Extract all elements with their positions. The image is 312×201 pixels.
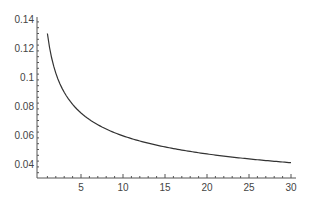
y-tick-label: 0.08 — [15, 101, 35, 112]
y-tick-label: 0.14 — [15, 14, 35, 25]
y-tick-label: 0.12 — [15, 43, 35, 54]
line-chart: 0.040.060.080.10.120.1451015202530 — [0, 0, 312, 201]
axes: 0.040.060.080.10.120.1451015202530 — [15, 14, 297, 194]
x-tick-label: 20 — [201, 182, 213, 193]
y-tick-label: 0.04 — [15, 159, 35, 170]
x-tick-label: 15 — [159, 182, 171, 193]
x-tick-label: 30 — [285, 182, 297, 193]
plot-area — [47, 34, 291, 163]
y-tick-label: 0.06 — [15, 130, 35, 141]
x-tick-label: 25 — [243, 182, 255, 193]
y-tick-label: 0.1 — [20, 72, 34, 83]
data-line — [47, 34, 291, 163]
x-tick-label: 10 — [117, 182, 129, 193]
x-tick-label: 5 — [78, 182, 84, 193]
